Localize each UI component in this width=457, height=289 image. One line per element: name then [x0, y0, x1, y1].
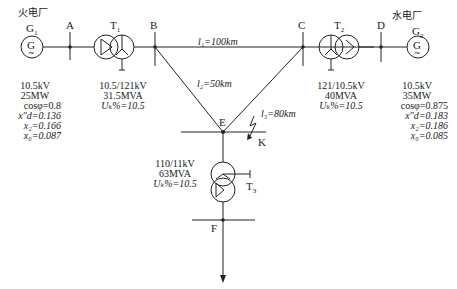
load-arrow: [220, 275, 226, 283]
svg-text:~: ~: [414, 49, 421, 58]
line-l2-label: l₂=50km: [197, 78, 232, 89]
g2-x0: x₀=0.085: [388, 130, 448, 141]
bus-d-label: D: [377, 19, 385, 31]
g1-sub: 1: [34, 29, 38, 37]
line-l1-label: l₁=100km: [198, 36, 238, 47]
t1-letter: T: [110, 19, 117, 31]
t3-winding-2: [211, 178, 235, 202]
g1-letter: G: [26, 22, 34, 34]
t2-uk: Uₖ%=10.5: [306, 100, 376, 111]
fault-k-label: K: [258, 136, 266, 148]
t1-uk: Uₖ%=10.5: [88, 100, 158, 111]
t1-winding-1: [94, 35, 118, 59]
hydro-plant-label: 水电厂: [392, 10, 422, 22]
t3-name: T3: [246, 180, 256, 197]
t2-letter: T: [334, 19, 341, 31]
generator-g1-name: G1: [26, 22, 37, 39]
bus-a-label: A: [66, 19, 74, 31]
t1-name: T1: [110, 19, 120, 36]
g2-sub: 2: [420, 32, 424, 40]
t3-uk: Uₖ%=10.5: [140, 178, 210, 189]
bus-e-label: E: [219, 116, 226, 128]
fault-k-symbol: [250, 116, 256, 136]
line-l3-label: l₃=80km: [261, 108, 296, 119]
t3-sub: 3: [253, 187, 257, 195]
g2-letter: G: [412, 25, 420, 37]
t1-sub: 1: [117, 26, 121, 34]
line-l3: [223, 47, 303, 132]
thermal-plant-label: 火电厂: [18, 7, 48, 19]
bus-b-label: B: [150, 19, 157, 31]
bus-f-label: F: [211, 222, 217, 234]
t2-name: T2: [334, 19, 344, 36]
t2-sub: 2: [341, 26, 345, 34]
t3-letter: T: [246, 180, 253, 192]
bus-c-label: C: [298, 19, 305, 31]
svg-text:~: ~: [28, 49, 35, 58]
g1-x0: x₀=0.087: [6, 130, 61, 141]
generator-g2-name: G2: [412, 25, 423, 42]
line-l2: [155, 47, 223, 132]
